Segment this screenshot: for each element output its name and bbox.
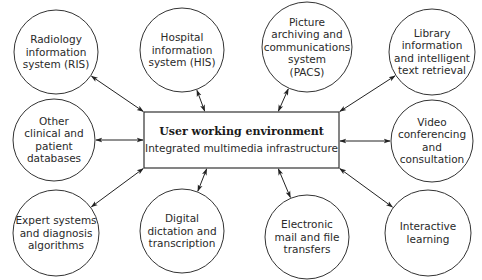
node-label-line: Interactive — [400, 220, 457, 232]
node-label-line: information — [152, 44, 213, 56]
node-label-line: consultation — [400, 153, 465, 165]
node-label-line: Digital — [165, 212, 199, 224]
node-email: Electronicmail and filetransfers — [265, 195, 349, 279]
node-label-line: databases — [27, 152, 81, 164]
connector-arrow-his — [197, 90, 205, 111]
connector-arrow-ris — [92, 76, 144, 111]
node-label-line: clinical and — [24, 127, 83, 139]
node-label-line: Video — [417, 116, 446, 128]
node-label-line: transcription — [149, 237, 216, 249]
diagram-canvas: User working environment Integrated mult… — [0, 0, 482, 280]
node-label-line: Other — [39, 115, 69, 127]
node-learning: Interactivelearning — [385, 190, 471, 276]
node-label-line: mail and file — [275, 231, 340, 243]
node-label-line: patient — [35, 140, 72, 152]
hub-title: User working environment — [159, 125, 325, 138]
node-other-db: Otherclinical andpatientdatabases — [13, 99, 95, 181]
node-label-line: conferencing — [398, 128, 466, 140]
node-label-line: system (HIS) — [148, 56, 215, 68]
node-dictation: Digitaldictation andtranscription — [140, 189, 224, 273]
hub-box: User working environment Integrated mult… — [144, 112, 339, 168]
node-expert: Expert systemsand diagnosisalgorithms — [13, 190, 99, 276]
node-label-line: information — [26, 46, 87, 58]
node-label-line: transfers — [284, 243, 331, 255]
node-label-line: dictation and — [147, 225, 216, 237]
node-label-line: text retrieval — [398, 64, 466, 76]
node-label-line: archiving and — [271, 28, 342, 40]
node-label-line: Hospital — [161, 31, 204, 43]
connector-arrow-learning — [340, 169, 393, 207]
node-ris: Radiologyinformationsystem (RIS) — [14, 10, 98, 94]
node-his: Hospitalinformationsystem (HIS) — [140, 8, 224, 92]
node-label-line: Expert systems — [15, 214, 96, 226]
node-label-line: (PACS) — [290, 66, 325, 78]
node-label-line: algorithms — [28, 239, 84, 251]
node-pacs: Picturearchiving andcommunicationssystem… — [262, 2, 352, 92]
hub-subtitle: Integrated multimedia infrastructure — [145, 142, 338, 154]
node-label-line: Radiology — [30, 33, 82, 45]
hub-rect — [144, 112, 339, 168]
node-label-line: and intelligent — [394, 52, 470, 64]
node-library: Libraryinformationand intelligenttext re… — [389, 9, 475, 95]
node-label-line: Electronic — [281, 218, 333, 230]
node-label-line: learning — [407, 233, 450, 245]
node-label-line: system — [288, 53, 326, 65]
node-label-line: communications — [264, 41, 351, 53]
node-label-line: Picture — [289, 16, 325, 28]
node-label-line: and diagnosis — [20, 227, 93, 239]
connector-arrow-library — [340, 76, 395, 112]
connector-arrow-email — [278, 169, 290, 197]
node-label-line: Library — [414, 27, 451, 39]
connector-arrow-expert — [91, 169, 143, 207]
connector-arrow-pacs — [278, 89, 288, 111]
node-video: Videoconferencingandconsultation — [391, 100, 473, 182]
node-label-line: and — [422, 141, 442, 153]
node-label-line: information — [402, 39, 463, 51]
connector-arrow-dictation — [198, 169, 207, 191]
node-label-line: system (RIS) — [23, 58, 90, 70]
